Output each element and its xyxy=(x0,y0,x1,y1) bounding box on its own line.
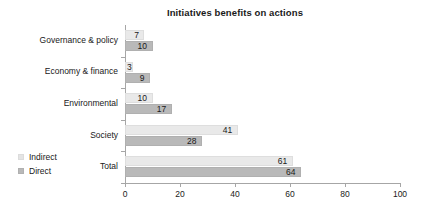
y-axis-category-label: Environmental xyxy=(0,98,118,108)
bar-value-label: 9 xyxy=(140,73,145,83)
chart-legend: Indirect Direct xyxy=(18,150,57,178)
legend-swatch-icon xyxy=(18,154,24,160)
x-axis-tick xyxy=(180,183,181,187)
bar-value-label: 64 xyxy=(286,167,295,177)
y-axis-category-label: Economy & finance xyxy=(0,66,118,76)
bar-group: 4128 xyxy=(125,120,400,152)
bar-value-label: 28 xyxy=(187,136,196,146)
x-axis-tick-label: 0 xyxy=(123,189,128,199)
bar-value-label: 41 xyxy=(223,125,232,135)
bar-group: 6164 xyxy=(125,151,400,183)
x-axis-line xyxy=(125,183,401,184)
x-axis-tick xyxy=(125,183,126,187)
x-axis-tick-label: 60 xyxy=(285,189,294,199)
chart-title: Initiatives benefits on actions xyxy=(0,7,422,18)
bar-value-label: 10 xyxy=(138,41,147,51)
y-axis-category-label: Society xyxy=(0,130,118,140)
bar-direct[interactable] xyxy=(125,73,150,83)
x-axis-tick xyxy=(290,183,291,187)
x-axis-tick xyxy=(345,183,346,187)
y-axis-category-label: Governance & policy xyxy=(0,35,118,45)
legend-swatch-icon xyxy=(18,168,24,174)
x-axis-tick-label: 80 xyxy=(340,189,349,199)
bar-value-label: 7 xyxy=(134,30,139,40)
bar-group: 39 xyxy=(125,57,400,89)
legend-item-indirect[interactable]: Indirect xyxy=(18,150,57,164)
x-axis-tick xyxy=(400,183,401,187)
bar-value-label: 17 xyxy=(157,104,166,114)
bar-chart: Initiatives benefits on actions Governan… xyxy=(0,0,422,211)
x-axis-tick-label: 20 xyxy=(175,189,184,199)
legend-label: Direct xyxy=(29,166,51,176)
bar-indirect[interactable] xyxy=(125,125,238,135)
bar-group: 710 xyxy=(125,25,400,57)
bar-value-label: 10 xyxy=(138,93,147,103)
bar-indirect[interactable] xyxy=(125,156,293,166)
plot-area: 71039101741286164 xyxy=(125,25,400,183)
bar-value-label: 3 xyxy=(127,62,132,72)
bar-value-label: 61 xyxy=(278,156,287,166)
legend-label: Indirect xyxy=(29,152,57,162)
x-axis-tick xyxy=(235,183,236,187)
legend-item-direct[interactable]: Direct xyxy=(18,164,57,178)
x-axis-tick-label: 40 xyxy=(230,189,239,199)
x-axis-tick-label: 100 xyxy=(393,189,407,199)
bar-group: 1017 xyxy=(125,88,400,120)
bar-direct[interactable] xyxy=(125,167,301,177)
